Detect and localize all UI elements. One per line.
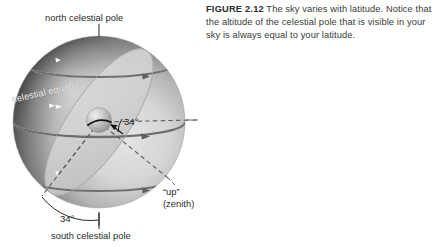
zenith-leader-line [168,178,176,186]
figure-caption: FIGURE 2.12 The sky varies with latitude… [206,3,432,43]
label-zenith: “up” (zenith) [163,186,194,209]
label-angle-bottom: 34° [60,213,75,224]
label-south-celestial-pole: south celestial pole [51,230,131,242]
label-zenith-up: “up” [163,186,180,197]
label-angle-center: 34° [124,116,139,127]
figure-number: FIGURE 2.12 [206,4,264,14]
celestial-sphere-svg [0,0,214,247]
label-zenith-word: (zenith) [163,198,194,210]
celestial-sphere-diagram: north celestial pole south celestial pol… [0,0,214,247]
label-north-celestial-pole: north celestial pole [45,12,123,24]
